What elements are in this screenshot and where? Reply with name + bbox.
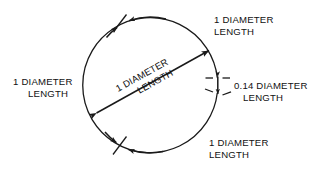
label-bottom-right-line2: LENGTH xyxy=(209,149,249,160)
gap-extension-dash-lower-right xyxy=(223,92,232,95)
label-gap-line2: LENGTH xyxy=(243,92,283,103)
diagram-canvas: 1 DIAMETER LENGTH 1 DIAMETER LENGTH 1 DI… xyxy=(0,0,319,172)
label-left-line1: 1 DIAMETER xyxy=(13,76,73,87)
gap-extension-dash-lower-left xyxy=(205,89,213,92)
bottom-tick-mark xyxy=(113,137,127,155)
label-top-right-line2: LENGTH xyxy=(214,26,254,37)
dimension-diagram: 1 DIAMETER LENGTH 1 DIAMETER LENGTH 1 DI… xyxy=(0,0,319,172)
label-diameter-group: 1 DIAMETER LENGTH xyxy=(114,56,176,104)
label-top-right-line1: 1 DIAMETER xyxy=(214,14,274,25)
label-bottom-right-line1: 1 DIAMETER xyxy=(209,137,269,148)
label-left-line2: LENGTH xyxy=(28,88,68,99)
label-gap-line1: 0.14 DIAMETER xyxy=(234,80,308,91)
